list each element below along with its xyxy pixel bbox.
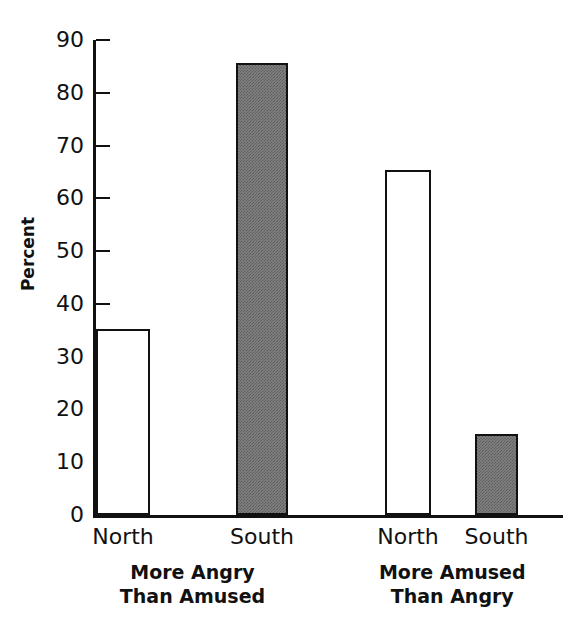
group-label-line-1: More Amused bbox=[379, 561, 526, 585]
group-label-line-2: Than Angry bbox=[379, 585, 526, 609]
y-tick-label: 10 bbox=[56, 451, 84, 473]
y-tick-label: 80 bbox=[56, 82, 84, 104]
y-tick-label: 70 bbox=[56, 135, 84, 157]
bar-3 bbox=[385, 170, 431, 515]
y-tick-mark bbox=[96, 39, 110, 41]
y-tick-mark bbox=[96, 303, 110, 305]
y-tick-label: 30 bbox=[56, 346, 84, 368]
group-label-line-1: More Angry bbox=[120, 561, 265, 585]
y-axis-label: Percent bbox=[18, 204, 38, 304]
bar-4 bbox=[475, 434, 518, 515]
group-label-2: More AmusedThan Angry bbox=[379, 561, 526, 609]
y-tick-label: 40 bbox=[56, 293, 84, 315]
y-tick-mark bbox=[96, 92, 110, 94]
bar-2 bbox=[236, 63, 288, 515]
x-axis-line bbox=[93, 515, 563, 518]
y-tick-label: 0 bbox=[70, 504, 84, 526]
x-tick-label-3: North bbox=[377, 526, 439, 548]
group-label-line-2: Than Amused bbox=[120, 585, 265, 609]
bar-1 bbox=[96, 329, 150, 515]
y-tick-label: 60 bbox=[56, 187, 84, 209]
y-tick-mark bbox=[96, 250, 110, 252]
y-tick-label: 90 bbox=[56, 29, 84, 51]
x-tick-label-4: South bbox=[465, 526, 529, 548]
y-tick-mark bbox=[96, 145, 110, 147]
bar-chart: Percent 0102030405060708090 NorthSouthNo… bbox=[0, 0, 579, 637]
plot-area: 0102030405060708090 NorthSouthNorthSouth… bbox=[93, 40, 563, 518]
x-tick-label-1: North bbox=[92, 526, 154, 548]
y-tick-mark bbox=[96, 197, 110, 199]
y-tick-label: 50 bbox=[56, 240, 84, 262]
y-tick-label: 20 bbox=[56, 398, 84, 420]
group-label-1: More AngryThan Amused bbox=[120, 561, 265, 609]
x-tick-label-2: South bbox=[230, 526, 294, 548]
